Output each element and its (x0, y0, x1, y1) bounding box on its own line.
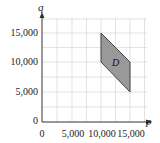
x-tick-label: 15,000 (117, 128, 145, 139)
region-d-label: D (111, 57, 120, 68)
grid (42, 18, 147, 122)
y-axis-label: q (38, 1, 44, 13)
x-tick-label: 0 (40, 128, 45, 139)
x-tick-label: 5,000 (62, 128, 85, 139)
y-tick-label: 10,000 (11, 56, 39, 67)
axes (42, 16, 148, 122)
y-tick-label: 5,000 (16, 86, 39, 97)
x-tick-label: 10,000 (88, 128, 116, 139)
y-tick-label: 0 (33, 115, 38, 126)
y-tick-label: 15,000 (11, 27, 39, 38)
chart: D p q 15,000 10,000 5,000 0 0 5,000 10,0… (0, 0, 160, 143)
x-axis-label: p (145, 115, 152, 127)
